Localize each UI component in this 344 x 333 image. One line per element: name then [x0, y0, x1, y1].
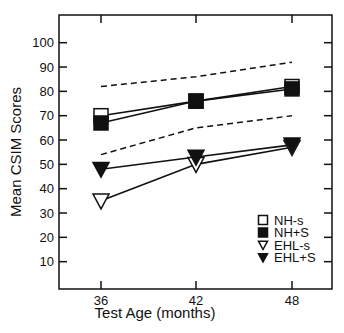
- open-triangle-down-marker-icon: [259, 241, 268, 249]
- filled-triangle-down-marker-icon: [259, 254, 268, 262]
- upper-dashed-line: [101, 62, 292, 86]
- y-tick-label: 100: [32, 35, 54, 50]
- legend-label: EHL+S: [274, 250, 316, 265]
- y-tick-label: 60: [40, 133, 54, 148]
- x-axis-title: Test Age (months): [95, 304, 216, 321]
- y-tick-label: 90: [40, 60, 54, 75]
- y-axis-title: Mean CSIM Scores: [7, 87, 24, 217]
- y-tick-label: 40: [40, 181, 54, 196]
- chart: 102030405060708090100 364248 Test Age (m…: [0, 0, 344, 333]
- data-series: [93, 79, 300, 208]
- filled-triangle-down-marker-icon: [93, 162, 109, 177]
- filled-square-marker-icon: [94, 116, 108, 130]
- y-tick-label: 50: [40, 157, 54, 172]
- y-tick-label: 30: [40, 206, 54, 221]
- x-tick-label: 48: [285, 293, 299, 308]
- y-tick-label: 70: [40, 108, 54, 123]
- y-tick-label: 80: [40, 84, 54, 99]
- y-tick-label: 20: [40, 230, 54, 245]
- legend: NH-sNH+SEHL-sEHL+S: [259, 213, 316, 266]
- open-square-marker-icon: [259, 216, 268, 225]
- y-tick-label: 10: [40, 254, 54, 269]
- filled-square-marker-icon: [285, 82, 299, 96]
- filled-square-marker-icon: [189, 94, 203, 108]
- filled-square-marker-icon: [259, 228, 268, 237]
- open-triangle-down-marker-icon: [93, 194, 109, 209]
